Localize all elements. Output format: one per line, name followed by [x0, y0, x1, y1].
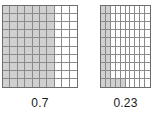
grid-cell — [62, 79, 69, 87]
grid-cell — [18, 47, 25, 55]
grid-cell — [55, 63, 62, 71]
grid-cell — [25, 14, 32, 22]
grid-cell — [55, 47, 62, 55]
grid-right-label: 0.23 — [100, 96, 151, 110]
grid-cell — [33, 55, 40, 63]
grid-cell — [47, 71, 54, 79]
grid-cell — [3, 55, 10, 63]
grid-cell — [18, 38, 25, 46]
grid-cell — [10, 79, 17, 87]
grid-cell — [40, 79, 47, 87]
grid-cell — [3, 14, 10, 22]
grid-cell — [3, 6, 10, 14]
grid-cell — [18, 6, 25, 14]
grid-cell — [55, 30, 62, 38]
grid-cell — [145, 63, 150, 71]
grid-cell — [33, 63, 40, 71]
grid-cell — [25, 55, 32, 63]
grid-cell — [47, 14, 54, 22]
grid-cell — [3, 71, 10, 79]
grid-cell — [33, 38, 40, 46]
grid-cell — [40, 38, 47, 46]
grid-cell — [47, 47, 54, 55]
grid-cell — [70, 47, 77, 55]
grid-cell — [10, 55, 17, 63]
grid-cell — [62, 6, 69, 14]
grid-cell — [40, 6, 47, 14]
grid-cell — [33, 22, 40, 30]
grid-cell — [145, 55, 150, 63]
grid-cell — [3, 79, 10, 87]
grid-cell — [10, 63, 17, 71]
grid-cell — [10, 14, 17, 22]
grid-cell — [145, 14, 150, 22]
grid-cell — [70, 79, 77, 87]
grid-cell — [47, 22, 54, 30]
grid-cell — [62, 30, 69, 38]
grid-cell — [62, 55, 69, 63]
grid-cell — [33, 79, 40, 87]
grid-cell — [18, 22, 25, 30]
grid-cell — [3, 63, 10, 71]
grid-cell — [40, 47, 47, 55]
grid-cell — [10, 71, 17, 79]
grid-cell — [25, 71, 32, 79]
grid-cell — [70, 63, 77, 71]
grid-cell — [62, 22, 69, 30]
grid-cell — [145, 6, 150, 14]
grid-cell — [145, 71, 150, 79]
grid-cell — [10, 47, 17, 55]
grid-cell — [70, 6, 77, 14]
grid-cell — [25, 6, 32, 14]
grid-cell — [10, 38, 17, 46]
grid-cell — [40, 22, 47, 30]
grid-cell — [10, 22, 17, 30]
hundredths-grid-left — [2, 5, 78, 88]
grid-cell — [70, 55, 77, 63]
grid-cell — [3, 22, 10, 30]
grid-cell — [47, 6, 54, 14]
grid-cell — [55, 6, 62, 14]
grid-cell — [18, 30, 25, 38]
grid-cell — [47, 63, 54, 71]
grid-cell — [70, 71, 77, 79]
decimal-grid-group-right: 0.23 — [100, 0, 151, 110]
grid-cell — [25, 38, 32, 46]
grid-cell — [70, 38, 77, 46]
decimal-grid-group-left: 0.7 — [2, 0, 78, 110]
grid-cell — [33, 47, 40, 55]
decimal-grid-figure: 0.7 0.23 — [0, 0, 156, 114]
grid-cell — [62, 47, 69, 55]
grid-cell — [145, 79, 150, 87]
hundredths-grid-right — [100, 5, 151, 88]
grid-cell — [40, 30, 47, 38]
grid-cell — [145, 47, 150, 55]
grid-cell — [55, 71, 62, 79]
grid-cell — [33, 30, 40, 38]
grid-cell — [25, 22, 32, 30]
grid-cell — [47, 79, 54, 87]
grid-cell — [40, 14, 47, 22]
grid-cell — [62, 38, 69, 46]
grid-cell — [10, 30, 17, 38]
grid-left-label: 0.7 — [2, 96, 78, 110]
grid-cell — [55, 22, 62, 30]
grid-cell — [40, 63, 47, 71]
grid-cell — [33, 6, 40, 14]
grid-cell — [145, 30, 150, 38]
grid-cell — [55, 55, 62, 63]
grid-cell — [145, 38, 150, 46]
grid-cell — [10, 6, 17, 14]
grid-cell — [40, 71, 47, 79]
grid-cell — [70, 14, 77, 22]
grid-cell — [25, 63, 32, 71]
grid-cell — [62, 14, 69, 22]
grid-cell — [25, 30, 32, 38]
grid-cell — [33, 71, 40, 79]
grid-cell — [70, 22, 77, 30]
grid-cell — [25, 47, 32, 55]
grid-cell — [62, 63, 69, 71]
grid-cell — [47, 30, 54, 38]
grid-cell — [62, 71, 69, 79]
grid-cell — [55, 79, 62, 87]
